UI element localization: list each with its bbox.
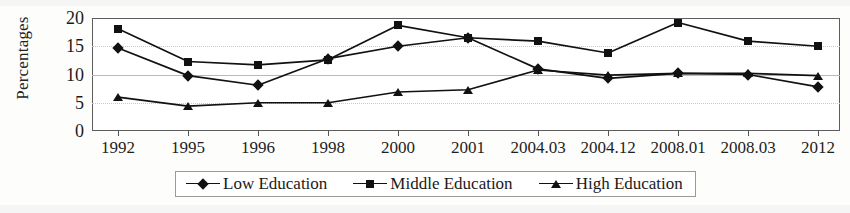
triangle-marker-icon	[183, 102, 193, 110]
y-tick-label: 15	[46, 37, 84, 55]
x-tick-mark	[398, 131, 399, 136]
x-tick-mark	[258, 131, 259, 136]
square-marker-icon	[534, 37, 542, 45]
square-marker-icon	[366, 180, 374, 188]
y-axis-title: Percentages	[13, 0, 33, 118]
legend-label: High Education	[576, 174, 683, 194]
legend-label: Middle Education	[390, 174, 512, 194]
square-marker-icon	[324, 56, 332, 64]
square-marker-icon	[814, 42, 822, 50]
scan-artifact-bottom	[0, 205, 850, 213]
series-line	[118, 23, 818, 65]
triangle-marker-icon	[393, 88, 403, 96]
x-tick-mark	[538, 131, 539, 136]
y-axis-tick-labels: 20151050	[46, 0, 84, 213]
x-tick-label: 1995	[171, 138, 205, 158]
x-tick-mark	[748, 131, 749, 136]
x-tick-label: 2001	[451, 138, 485, 158]
x-tick-label: 1996	[241, 138, 275, 158]
square-marker-icon	[464, 34, 472, 42]
plot-area	[92, 18, 840, 131]
triangle-marker-icon	[533, 66, 543, 74]
x-tick-mark	[818, 131, 819, 136]
square-marker-icon	[184, 58, 192, 66]
x-tick-label: 2008.03	[720, 138, 775, 158]
x-axis-tick-labels: 1992199519961998200020012004.032004.1220…	[0, 138, 850, 164]
triangle-marker-icon	[253, 99, 263, 107]
triangle-marker-icon	[743, 69, 753, 77]
chart-legend: Low EducationMiddle EducationHigh Educat…	[175, 171, 696, 197]
square-marker-icon	[254, 61, 262, 69]
x-tick-label: 2004.03	[510, 138, 565, 158]
line-chart-figure: Percentages 20151050 1992199519961998200…	[0, 0, 850, 213]
legend-label: Low Education	[223, 174, 327, 194]
legend-swatch-square	[353, 177, 387, 191]
x-tick-mark	[678, 131, 679, 136]
x-tick-mark	[328, 131, 329, 136]
y-tick-label: 5	[46, 94, 84, 112]
triangle-marker-icon	[113, 93, 123, 101]
triangle-marker-icon	[673, 69, 683, 77]
x-tick-label: 1992	[101, 138, 135, 158]
scan-artifact-top	[0, 0, 850, 6]
triangle-marker-icon	[603, 71, 613, 79]
x-tick-mark	[118, 131, 119, 136]
y-tick-label: 20	[46, 9, 84, 27]
x-tick-mark	[188, 131, 189, 136]
y-tick-label: 10	[46, 66, 84, 84]
triangle-marker-icon	[813, 72, 823, 80]
square-marker-icon	[604, 49, 612, 57]
triangle-marker-icon	[551, 180, 561, 188]
x-tick-label: 1998	[311, 138, 345, 158]
legend-swatch-diamond	[186, 177, 220, 191]
x-tick-label: 2004.12	[580, 138, 635, 158]
legend-item-middle-education[interactable]: Middle Education	[353, 174, 512, 194]
legend-item-high-education[interactable]: High Education	[539, 174, 683, 194]
legend-swatch-triangle	[539, 177, 573, 191]
diamond-marker-icon	[197, 178, 208, 189]
square-marker-icon	[114, 25, 122, 33]
x-tick-label: 2008.01	[650, 138, 705, 158]
triangle-marker-icon	[463, 86, 473, 94]
x-tick-label: 2012	[801, 138, 835, 158]
legend-item-low-education[interactable]: Low Education	[186, 174, 327, 194]
square-marker-icon	[674, 19, 682, 27]
square-marker-icon	[744, 37, 752, 45]
triangle-marker-icon	[323, 99, 333, 107]
x-tick-label: 2000	[381, 138, 415, 158]
x-tick-mark	[468, 131, 469, 136]
x-tick-mark	[608, 131, 609, 136]
square-marker-icon	[394, 21, 402, 29]
